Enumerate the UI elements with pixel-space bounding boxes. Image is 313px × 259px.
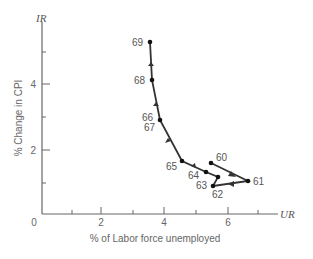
y-axis-title: % Change in CPI <box>13 80 24 157</box>
x-tick-0: 0 <box>31 217 37 228</box>
x-axis: 0 2 4 6 UR % of Labor force unemployed <box>31 207 295 244</box>
y-axis-symbol: IR <box>35 12 47 24</box>
label-69: 69 <box>132 37 144 48</box>
phillips-curve-chart: 4 2 IR % Change in CPI 0 2 4 6 UR % of L… <box>0 0 313 259</box>
y-axis: 4 2 IR % Change in CPI <box>13 12 50 214</box>
y-tick-4: 4 <box>30 79 36 90</box>
data-path <box>148 42 248 187</box>
x-tick-4: 4 <box>161 217 167 228</box>
label-64: 64 <box>188 170 200 181</box>
x-axis-title: % of Labor force unemployed <box>90 233 221 244</box>
label-68: 68 <box>134 75 146 86</box>
y-tick-2: 2 <box>30 145 36 156</box>
x-tick-6: 6 <box>225 217 231 228</box>
label-67: 67 <box>144 122 156 133</box>
label-60: 60 <box>216 152 228 163</box>
data-points <box>148 40 251 189</box>
x-axis-symbol: UR <box>280 208 295 220</box>
label-63: 63 <box>196 180 208 191</box>
label-62: 62 <box>212 189 224 200</box>
label-65: 65 <box>166 161 178 172</box>
label-61: 61 <box>253 176 265 187</box>
x-tick-2: 2 <box>98 217 104 228</box>
